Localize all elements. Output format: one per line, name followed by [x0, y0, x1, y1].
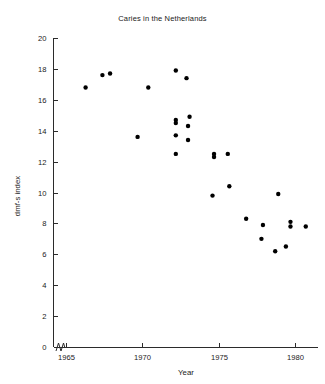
data-point — [83, 85, 87, 89]
y-tick-label: 16 — [38, 96, 46, 105]
data-point — [273, 249, 277, 253]
data-point — [187, 115, 191, 119]
data-point — [174, 68, 178, 72]
y-tick-label: 4 — [42, 281, 46, 290]
y-tick-label-group: 02468101214161820 — [38, 34, 46, 352]
data-point — [184, 76, 188, 80]
x-tick-group — [67, 343, 296, 347]
data-point — [226, 152, 230, 156]
y-tick-label: 2 — [42, 312, 46, 321]
y-tick-label: 8 — [42, 219, 46, 228]
data-point — [244, 217, 248, 221]
data-point — [186, 124, 190, 128]
data-point — [174, 133, 178, 137]
data-point — [276, 192, 280, 196]
x-tick-label: 1970 — [134, 353, 151, 362]
data-point — [288, 220, 292, 224]
y-tick-label: 18 — [38, 65, 46, 74]
x-tick-label: 1975 — [211, 353, 228, 362]
data-point — [284, 244, 288, 248]
data-point — [210, 193, 214, 197]
y-tick-group — [54, 39, 58, 348]
data-point — [186, 138, 190, 142]
y-tick-label: 14 — [38, 127, 46, 136]
x-axis: 1965197019751980 Year — [54, 343, 319, 377]
y-tick-label: 20 — [38, 34, 46, 43]
data-point — [288, 224, 292, 228]
data-point-layer — [83, 68, 308, 253]
data-point — [259, 237, 263, 241]
data-point — [227, 184, 231, 188]
y-tick-label: 10 — [38, 189, 46, 198]
data-point — [174, 121, 178, 125]
data-point — [100, 73, 104, 77]
data-point — [146, 85, 150, 89]
plot-area: 02468101214161820 dmf-s index 1965197019… — [0, 0, 325, 384]
data-point — [261, 223, 265, 227]
y-tick-label: 0 — [42, 343, 46, 352]
y-axis-label: dmf-s index — [13, 176, 22, 216]
x-tick-label: 1965 — [58, 353, 75, 362]
y-axis: 02468101214161820 dmf-s index — [13, 34, 58, 352]
x-axis-label: Year — [178, 368, 194, 377]
data-point — [108, 71, 112, 75]
x-tick-label: 1980 — [287, 353, 304, 362]
scatter-chart: Caries in the Netherlands 02468101214161… — [0, 0, 325, 384]
data-point — [304, 224, 308, 228]
data-point — [174, 152, 178, 156]
data-point — [135, 135, 139, 139]
y-tick-label: 12 — [38, 158, 46, 167]
y-tick-label: 6 — [42, 250, 46, 259]
x-tick-label-group: 1965197019751980 — [58, 353, 304, 362]
data-point — [212, 155, 216, 159]
